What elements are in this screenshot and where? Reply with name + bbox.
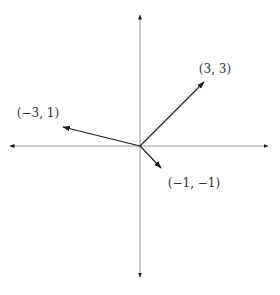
vectors-group: [63, 82, 204, 168]
vector-neg3-1: [63, 127, 140, 146]
vector-neg1-neg1: [140, 146, 161, 168]
vector-label-3-3: (3, 3): [199, 62, 231, 76]
vector-label-neg1-neg1: (−1, −1): [168, 176, 220, 190]
vector-3-3: [140, 82, 204, 146]
vector-label-neg3-1: (−3, 1): [17, 106, 59, 120]
vector-diagram: [0, 0, 280, 295]
